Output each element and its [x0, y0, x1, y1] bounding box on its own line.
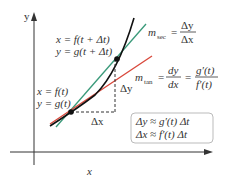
- y-axis-label: y: [24, 10, 30, 22]
- svg-text:f′(t): f′(t): [196, 78, 212, 91]
- parametric-diagram: y x x = f(t + Δt) y = g(t + Δt) x = f(t)…: [0, 0, 228, 183]
- point-t-plus-dt: [114, 56, 120, 62]
- svg-text:g′(t): g′(t): [196, 64, 215, 77]
- approx-dx: Δx ≈ f′(t) Δt: [135, 128, 188, 141]
- delta-x-label: Δx: [91, 115, 104, 127]
- svg-text:dx: dx: [168, 78, 179, 90]
- point1-y-label: y = g(t): [36, 97, 71, 110]
- point-t: [68, 109, 74, 115]
- svg-text:Δy: Δy: [181, 19, 194, 31]
- svg-text:m: m: [148, 26, 156, 38]
- delta-y-label: Δy: [120, 82, 133, 94]
- x-axis-label: x: [86, 165, 92, 177]
- approx-dy: Δy ≈ g′(t) Δt: [135, 115, 190, 128]
- svg-text:=: =: [158, 71, 164, 83]
- point2-y-label: y = g(t + Δt): [55, 45, 112, 58]
- svg-text:m: m: [135, 71, 143, 83]
- svg-text:=: =: [185, 71, 191, 83]
- tangent-slope-formula: m tan = dy dx = g′(t) f′(t): [135, 64, 218, 91]
- svg-text:dy: dy: [168, 64, 179, 76]
- svg-text:tan: tan: [144, 78, 153, 86]
- svg-text:Δx: Δx: [181, 33, 194, 45]
- secant-slope-formula: m sec = Δy Δx: [148, 19, 196, 45]
- svg-text:=: =: [171, 26, 177, 38]
- x-axis-arrow-icon: [204, 149, 213, 155]
- svg-text:sec: sec: [157, 33, 166, 41]
- y-axis-arrow-icon: [31, 12, 37, 21]
